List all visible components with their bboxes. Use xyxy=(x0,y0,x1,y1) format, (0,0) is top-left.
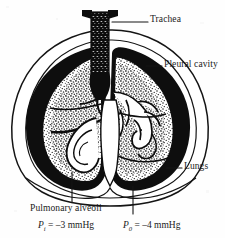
subscript-i: i xyxy=(44,225,46,232)
label-trachea: Trachea xyxy=(150,15,181,25)
equation-intrapulmonary-pressure: Pi = –3 mmHg xyxy=(38,221,94,232)
equation-intrapleural-pressure: P0 = –4 mmHg xyxy=(123,221,180,232)
value-intrapleural: –4 mmHg xyxy=(142,220,180,230)
value-intrapulmonary: –3 mmHg xyxy=(56,220,94,230)
label-pleural-cavity: Pleural cavity xyxy=(164,60,218,70)
label-pulmonary-alveoli: Pulmonary alveoli xyxy=(30,204,102,214)
subscript-0: 0 xyxy=(129,225,132,232)
relation-equals-i: = xyxy=(48,220,53,230)
label-lungs: Lungs xyxy=(184,162,208,172)
relation-equals-o: = xyxy=(134,220,139,230)
